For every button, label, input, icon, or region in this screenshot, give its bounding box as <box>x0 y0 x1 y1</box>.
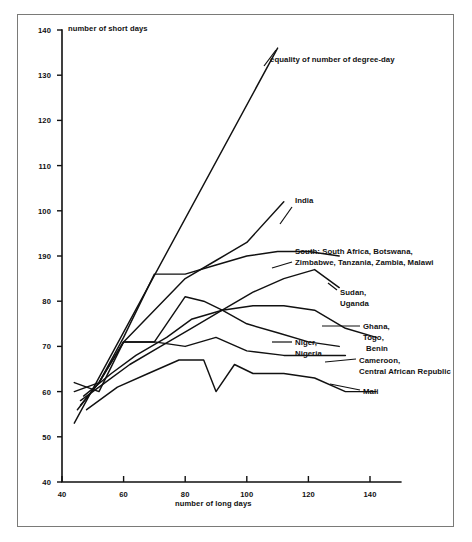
x-tick-label: 100 <box>240 490 253 499</box>
y-tick-label: 70 <box>42 342 51 351</box>
leader-line <box>272 262 292 268</box>
x-tick-label: 120 <box>302 490 315 499</box>
x-tick-label: 80 <box>181 490 190 499</box>
axes-group <box>62 30 401 482</box>
leader-line <box>325 359 356 362</box>
label-sudan-line1: Sudan, <box>340 288 366 297</box>
figure-page: 1401301201101001908070605040 40608010012… <box>0 0 472 542</box>
series-line <box>74 48 277 423</box>
y-tick-label: 130 <box>38 71 51 80</box>
y-tick-label: 140 <box>38 26 51 35</box>
y-axis-tick-labels: 1401301201101001908070605040 <box>38 26 51 487</box>
y-axis-title: number of short days <box>68 24 148 33</box>
x-tick-label: 40 <box>58 490 67 499</box>
label-equality: equality of number of degree-day <box>270 55 395 64</box>
label-mali: Mali <box>363 387 378 396</box>
label-south-line2: Zimbabwe, Tanzania, Zambia, Malawi <box>295 258 433 267</box>
label-ghana-line1: Ghana, <box>363 322 390 331</box>
series-line <box>81 270 340 401</box>
label-south-line1: South: South Africa, Botswana, <box>295 247 413 256</box>
label-ghana-line2: Togo, <box>363 333 384 342</box>
data-series-group <box>74 48 376 423</box>
label-cameroon-line1: Cameroon, <box>359 356 400 365</box>
label-niger-line2: Nigeria <box>295 349 322 358</box>
y-tick-label: 190 <box>38 252 51 261</box>
y-tick-label: 120 <box>38 116 51 125</box>
label-india: India <box>295 196 314 205</box>
x-tick-label: 140 <box>364 490 377 499</box>
y-tick-label: 40 <box>42 478 51 487</box>
x-axis-tick-labels: 406080100120140 <box>58 490 377 499</box>
leader-line <box>328 283 337 290</box>
leader-line <box>280 207 292 224</box>
label-ghana-line3: Benin <box>366 344 388 353</box>
label-niger-line1: Niger, <box>295 338 317 347</box>
axis-ticks-group <box>57 30 370 482</box>
series-line <box>77 252 339 410</box>
x-axis-title: number of long days <box>175 499 252 508</box>
line-chart: 1401301201101001908070605040 40608010012… <box>0 0 472 542</box>
y-tick-label: 50 <box>42 433 51 442</box>
x-tick-label: 60 <box>119 490 128 499</box>
y-tick-label: 80 <box>42 297 51 306</box>
label-sudan-line2: Uganda <box>340 299 370 308</box>
series-line <box>81 202 284 405</box>
y-tick-label: 60 <box>42 388 51 397</box>
label-cameroon-line2: Central African Republic <box>359 367 452 376</box>
y-tick-label: 110 <box>38 162 51 171</box>
y-tick-label: 100 <box>38 207 51 216</box>
